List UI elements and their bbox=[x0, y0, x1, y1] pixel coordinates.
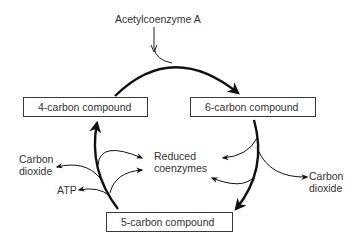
cycle-arrows bbox=[0, 0, 358, 245]
arrow-5c-to-reduced-lower bbox=[110, 170, 142, 193]
output-label-reduced-line2: coenzymes bbox=[154, 162, 207, 174]
arrow-5c-to-co2 bbox=[57, 165, 100, 178]
output-label-right-co2-line1: Carbon bbox=[309, 170, 343, 182]
input-label-acetylcoenzyme: Acetylcoenzyme A bbox=[115, 13, 201, 25]
arrow-4c-to-6c bbox=[115, 67, 238, 96]
node-label: 5-carbon compound bbox=[121, 216, 214, 228]
arrow-6c-to-reduced-lower bbox=[212, 177, 254, 184]
node-4-carbon-compound: 4-carbon compound bbox=[23, 97, 148, 117]
arrow-6c-to-reduced-upper bbox=[223, 138, 257, 158]
output-label-left-co2-line1: Carbon bbox=[19, 153, 53, 165]
output-label-right-co2-line2: dioxide bbox=[309, 182, 342, 194]
arrow-5c-to-4c bbox=[95, 123, 118, 209]
node-label: 6-carbon compound bbox=[205, 101, 298, 113]
output-label-left-co2-line2: dioxide bbox=[19, 165, 52, 177]
output-label-atp: ATP bbox=[57, 184, 77, 196]
node-label: 4-carbon compound bbox=[38, 101, 131, 113]
node-5-carbon-compound: 5-carbon compound bbox=[106, 212, 233, 232]
node-6-carbon-compound: 6-carbon compound bbox=[190, 97, 316, 117]
krebs-cycle-diagram: Acetylcoenzyme A 4-carbon compound 6-car… bbox=[0, 0, 358, 245]
arrow-6c-to-co2 bbox=[258, 150, 307, 177]
arrow-6c-to-5c bbox=[236, 120, 258, 209]
arrow-5c-to-reduced-upper bbox=[98, 150, 142, 165]
output-label-reduced-line1: Reduced bbox=[154, 150, 196, 162]
